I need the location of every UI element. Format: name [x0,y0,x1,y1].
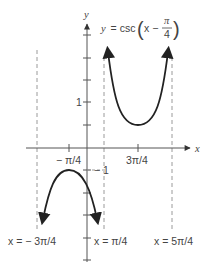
equation-paren-open: ( [137,18,144,40]
tick-label-3pi-4: 3π/4 [126,154,148,166]
tick-label-neg1: − 1 [94,164,109,176]
equation-paren-close: ) [173,18,180,40]
upper-branch-curve [108,52,168,125]
equation-four: 4 [164,28,170,40]
asymptote-label-left: x = − 3π/4 [8,235,56,247]
csc-graph: y x y = csc ( x − π 4 ) − π/4 3π/4 1 − 1… [0,0,206,268]
y-axis-label: y [83,9,89,20]
asymptotes [37,50,172,232]
x-axis-label: x [194,143,200,154]
equation-pi: π [164,15,170,26]
equation-inner: x − [144,22,158,34]
tick-label-neg-pi-4: − π/4 [56,154,81,166]
asymptote-label-right: x = 5π/4 [154,235,193,247]
asymptote-label-mid: x = π/4 [94,235,127,247]
tick-label-1: 1 [76,96,82,108]
lower-branch-curve [43,170,97,219]
equation-label: y = csc [100,22,135,34]
